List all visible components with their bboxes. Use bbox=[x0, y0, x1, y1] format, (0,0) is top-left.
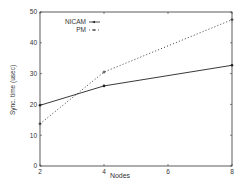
y-tick-label: 0 bbox=[33, 162, 37, 169]
x-axis: 2468 bbox=[38, 12, 234, 175]
legend-marker-nicam bbox=[92, 21, 95, 23]
legend-marker-pm bbox=[93, 29, 95, 31]
x-tick-label: 2 bbox=[38, 168, 42, 175]
legend: NICAM PM bbox=[65, 18, 100, 33]
series-nicam-line bbox=[40, 65, 232, 105]
y-tick-label: 40 bbox=[30, 39, 38, 46]
x-tick-label: 4 bbox=[102, 168, 106, 175]
series-pm-line bbox=[40, 20, 232, 124]
chart: 01020304050 2468 Nodes Sync. time (usec)… bbox=[0, 0, 243, 184]
y-tick-label: 10 bbox=[30, 132, 38, 139]
data-point-nicam bbox=[231, 64, 234, 67]
x-tick-label: 6 bbox=[166, 168, 170, 175]
x-tick-label: 8 bbox=[230, 168, 234, 175]
x-axis-label: Nodes bbox=[110, 172, 131, 179]
y-axis-label: Sync. time (usec) bbox=[9, 65, 17, 115]
data-point-nicam bbox=[39, 104, 42, 107]
y-tick-label: 20 bbox=[30, 101, 38, 108]
data-point-nicam bbox=[103, 85, 106, 88]
y-tick-label: 50 bbox=[30, 8, 38, 15]
legend-label-pm: PM bbox=[76, 26, 86, 33]
legend-label-nicam: NICAM bbox=[65, 18, 86, 25]
data-point-pm bbox=[39, 122, 42, 125]
series-lines bbox=[39, 18, 234, 125]
y-tick-label: 30 bbox=[30, 70, 38, 77]
plot-frame bbox=[40, 12, 232, 166]
data-point-pm bbox=[231, 18, 234, 21]
y-axis: 01020304050 bbox=[30, 8, 232, 169]
